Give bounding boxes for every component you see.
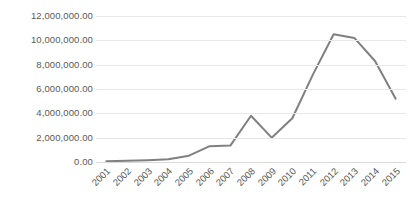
gridline: [96, 113, 406, 114]
y-tick-label: 10,000,000.00: [31, 35, 93, 45]
gridline: [96, 40, 406, 41]
x-tick-label: 2013: [339, 166, 361, 188]
x-tick-label: 2011: [297, 166, 318, 187]
x-tick-label: 2008: [235, 166, 257, 188]
y-tick-label: 6,000,000.00: [36, 84, 93, 94]
y-tick-label: 0.00: [74, 157, 93, 167]
x-tick-label: 2015: [380, 166, 402, 188]
x-tick-label: 2007: [215, 166, 237, 188]
gridline: [96, 65, 406, 66]
x-tick-label: 2009: [256, 166, 278, 188]
y-tick-label: 4,000,000.00: [36, 108, 93, 118]
x-tick-label: 2012: [318, 166, 340, 188]
gridline: [96, 89, 406, 90]
gridline: [96, 138, 406, 139]
gridline: [96, 16, 406, 17]
x-tick-label: 2003: [132, 166, 154, 188]
line-chart: 0.002,000,000.004,000,000.006,000,000.00…: [0, 0, 412, 204]
series-polyline: [106, 34, 395, 161]
x-tick-label: 2001: [91, 166, 113, 188]
y-tick-label: 8,000,000.00: [36, 60, 93, 70]
y-tick-label: 12,000,000.00: [31, 11, 93, 21]
x-tick-label: 2014: [359, 166, 381, 188]
y-tick-label: 2,000,000.00: [36, 133, 93, 143]
x-tick-label: 2004: [153, 166, 175, 188]
x-tick-label: 2002: [111, 166, 133, 188]
x-axis: 2001200220032004200520062007200820092010…: [96, 162, 406, 204]
x-tick-label: 2006: [194, 166, 216, 188]
y-axis: 0.002,000,000.004,000,000.006,000,000.00…: [0, 0, 93, 204]
x-tick-label: 2010: [277, 166, 299, 188]
x-tick-label: 2005: [173, 166, 195, 188]
